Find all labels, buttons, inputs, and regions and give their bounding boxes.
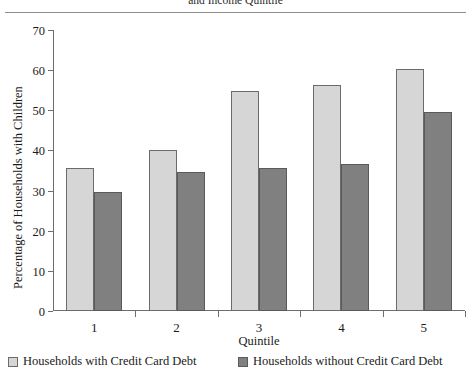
y-tick-40: 40: [48, 150, 53, 151]
figure-title-text: and Income Quintile: [0, 0, 471, 7]
x-tick-boundary-2: [218, 311, 219, 317]
legend-label-with-debt: Households with Credit Card Debt: [23, 354, 197, 369]
legend-item-without-debt: Households without Credit Card Debt: [238, 354, 443, 369]
legend-item-with-debt: Households with Credit Card Debt: [8, 354, 197, 369]
x-tick-boundary-4: [383, 311, 384, 317]
chart-figure: and Income Quintile Percentage of Househ…: [0, 0, 471, 374]
y-tick-50: 50: [48, 110, 53, 111]
y-axis-title: Percentage of Households with Children: [11, 63, 26, 313]
bar-q4-series0: [313, 85, 341, 311]
x-tick-boundary-1: [135, 311, 136, 317]
bar-q4-series1: [341, 164, 369, 311]
x-tick-boundary-3: [300, 311, 301, 317]
light-gray-swatch-icon: [8, 357, 18, 367]
y-tick-label-50: 50: [33, 104, 46, 119]
y-tick-0: 0: [48, 311, 53, 312]
figure-title-clipped: and Income Quintile: [0, 0, 471, 9]
y-tick-label-70: 70: [33, 24, 46, 39]
y-tick-60: 60: [48, 70, 53, 71]
x-tick-boundary-5: [465, 311, 466, 317]
bar-q1-series1: [94, 192, 122, 311]
y-tick-70: 70: [48, 30, 53, 31]
y-tick-label-10: 10: [33, 264, 46, 279]
y-axis-line: [53, 30, 54, 311]
y-tick-label-20: 20: [33, 224, 46, 239]
bar-q3-series0: [231, 91, 259, 311]
chart-legend: Households with Credit Card Debt Househo…: [0, 354, 471, 374]
title-divider-rule: [5, 12, 466, 13]
legend-label-without-debt: Households without Credit Card Debt: [253, 354, 443, 369]
bar-q5-series1: [424, 112, 452, 311]
y-tick-label-0: 0: [39, 305, 45, 320]
y-tick-label-40: 40: [33, 144, 46, 159]
bar-q5-series0: [396, 69, 424, 311]
bar-q2-series0: [149, 150, 177, 311]
x-axis-title: Quintile: [53, 334, 465, 349]
bar-q3-series1: [259, 168, 287, 311]
plot-area: 010203040506070 12345: [53, 30, 465, 311]
y-tick-label-60: 60: [33, 64, 46, 79]
y-tick-label-30: 30: [33, 184, 46, 199]
y-tick-20: 20: [48, 231, 53, 232]
y-tick-30: 30: [48, 191, 53, 192]
bar-q1-series0: [66, 168, 94, 311]
y-tick-10: 10: [48, 271, 53, 272]
bar-q2-series1: [177, 172, 205, 311]
dark-gray-swatch-icon: [238, 357, 248, 367]
